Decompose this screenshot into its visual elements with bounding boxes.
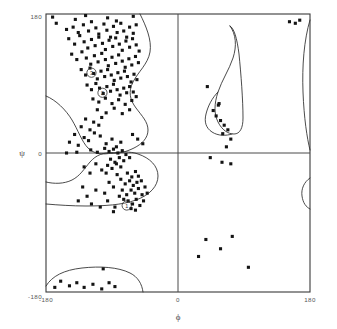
data-point — [116, 88, 119, 91]
data-point — [136, 138, 139, 141]
data-point — [83, 286, 86, 289]
data-point — [125, 91, 128, 94]
data-point — [125, 36, 128, 39]
data-point — [132, 184, 135, 187]
data-point — [118, 156, 121, 159]
data-point — [112, 185, 115, 188]
data-point — [130, 63, 133, 66]
data-point — [229, 162, 232, 165]
data-point — [104, 58, 107, 61]
data-point — [105, 172, 108, 175]
data-point — [131, 133, 134, 136]
data-point — [97, 60, 100, 63]
data-point — [128, 26, 131, 29]
data-point — [288, 20, 291, 23]
data-point — [83, 165, 86, 168]
contour-right-edge-upper — [303, 20, 310, 150]
data-point — [226, 128, 229, 131]
data-point — [109, 158, 112, 161]
data-point — [220, 161, 223, 164]
data-point — [86, 195, 89, 198]
data-point — [84, 117, 87, 120]
data-point — [118, 195, 121, 198]
data-point — [80, 50, 83, 53]
y-axis-zero-tick-label: 0 — [38, 150, 42, 157]
data-point — [121, 189, 124, 192]
data-point — [87, 139, 90, 142]
data-point — [212, 109, 215, 112]
data-point — [83, 136, 86, 139]
data-point — [146, 192, 149, 195]
data-point — [111, 45, 114, 48]
data-point — [90, 38, 93, 41]
contour-left-handed-helix — [215, 26, 243, 134]
data-point — [124, 153, 127, 156]
data-point — [115, 19, 118, 22]
data-point — [219, 247, 222, 250]
data-point — [105, 29, 108, 32]
data-point — [119, 178, 122, 181]
data-point — [119, 165, 122, 168]
data-point — [138, 50, 141, 53]
data-point — [116, 173, 119, 176]
data-point — [110, 73, 113, 76]
data-point — [219, 119, 222, 122]
contour-alpha-lower — [46, 152, 158, 206]
data-point — [142, 199, 145, 202]
data-point — [132, 32, 135, 35]
data-point — [204, 238, 207, 241]
data-point — [132, 15, 135, 18]
data-point — [102, 22, 105, 25]
data-point — [225, 145, 228, 148]
data-point — [65, 28, 68, 31]
data-point — [137, 187, 140, 190]
data-point — [130, 175, 133, 178]
data-point — [119, 77, 122, 80]
data-point — [113, 285, 116, 288]
data-point — [221, 132, 224, 135]
data-point — [116, 31, 119, 34]
data-point — [86, 46, 89, 49]
data-point — [106, 68, 109, 71]
data-point — [131, 37, 134, 40]
data-point — [128, 46, 131, 49]
data-point — [121, 49, 124, 52]
data-point — [77, 199, 80, 202]
data-point — [128, 179, 131, 182]
data-point — [135, 43, 138, 46]
data-point — [247, 266, 250, 269]
data-point — [215, 114, 218, 117]
data-point — [75, 281, 78, 284]
data-point — [125, 193, 128, 196]
data-point — [126, 172, 129, 175]
x-axis-zero-tick-label: 0 — [176, 296, 180, 303]
data-point — [119, 141, 122, 144]
data-point — [82, 23, 85, 26]
scatter-points-layer — [51, 14, 301, 290]
data-point — [105, 85, 108, 88]
data-point — [70, 53, 73, 56]
data-point — [137, 175, 140, 178]
data-point — [135, 23, 138, 26]
data-point — [114, 62, 117, 65]
data-point — [110, 102, 113, 105]
data-point — [73, 133, 76, 136]
data-point — [99, 70, 102, 73]
data-point — [84, 14, 87, 17]
data-point — [112, 210, 115, 213]
data-point — [223, 124, 226, 127]
data-point — [135, 198, 138, 201]
x-axis-min-tick-label: -180 — [39, 296, 53, 303]
data-point — [126, 75, 129, 78]
data-point — [138, 204, 141, 207]
data-point — [113, 206, 116, 209]
data-point — [90, 202, 93, 205]
data-point — [294, 22, 297, 25]
data-point — [123, 70, 126, 73]
data-point — [128, 156, 131, 159]
data-point — [106, 199, 109, 202]
data-point — [132, 90, 135, 93]
data-point — [89, 148, 92, 151]
data-point — [112, 25, 115, 28]
data-point — [65, 151, 68, 154]
